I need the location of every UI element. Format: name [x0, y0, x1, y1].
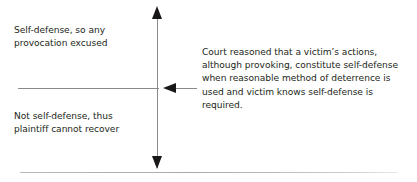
arrow-up-icon	[152, 6, 162, 19]
label-lower-left: Not self-defense, thus plaintiff cannot …	[14, 110, 154, 136]
label-upper-left: Self-defense, so any provocation excused	[14, 24, 154, 50]
diagram-canvas: Self-defense, so any provocation excused…	[0, 0, 417, 182]
connector-line	[175, 88, 197, 89]
axis-vertical-line	[157, 14, 158, 168]
divider-horizontal-line	[18, 88, 159, 89]
arrow-down-icon	[152, 156, 162, 169]
arrow-left-icon	[163, 83, 176, 93]
bottom-rule	[20, 172, 398, 173]
annotation-right: Court reasoned that a victim’s actions, …	[202, 46, 407, 112]
